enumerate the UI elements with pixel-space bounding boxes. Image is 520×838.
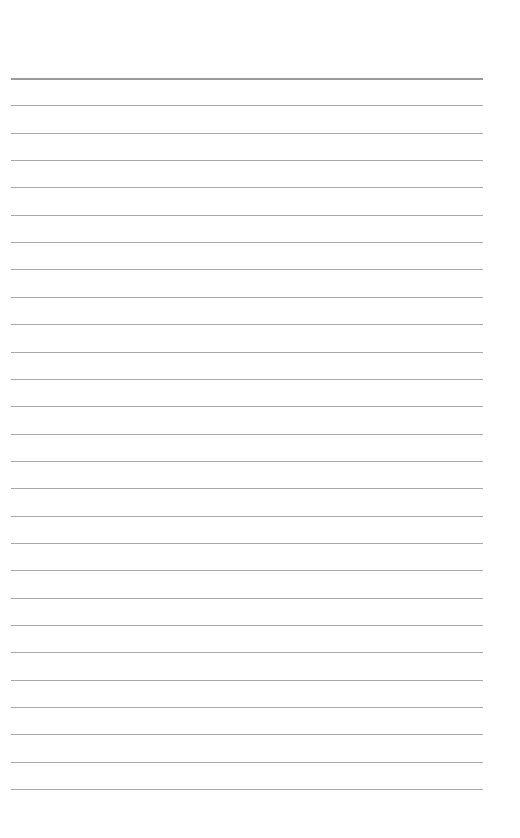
rule-line xyxy=(11,652,483,653)
rule-line xyxy=(11,734,483,735)
rule-line xyxy=(11,680,483,681)
rule-line xyxy=(11,434,483,435)
rule-line xyxy=(11,570,483,571)
rule-line xyxy=(11,707,483,708)
lined-paper-page xyxy=(0,0,520,838)
rule-line xyxy=(11,187,483,188)
rule-line xyxy=(11,215,483,216)
rule-line xyxy=(11,105,483,106)
rule-line xyxy=(11,324,483,325)
rule-line xyxy=(11,488,483,489)
header-rule-line xyxy=(11,78,483,80)
rule-line xyxy=(11,269,483,270)
rule-line xyxy=(11,598,483,599)
rule-line xyxy=(11,516,483,517)
rule-line xyxy=(11,297,483,298)
rule-line xyxy=(11,133,483,134)
rule-line xyxy=(11,625,483,626)
rule-line xyxy=(11,242,483,243)
rule-line xyxy=(11,762,483,763)
rule-line xyxy=(11,379,483,380)
rule-line xyxy=(11,406,483,407)
rule-line xyxy=(11,789,483,790)
rule-line xyxy=(11,352,483,353)
rule-line xyxy=(11,461,483,462)
rule-line xyxy=(11,543,483,544)
rule-line xyxy=(11,160,483,161)
